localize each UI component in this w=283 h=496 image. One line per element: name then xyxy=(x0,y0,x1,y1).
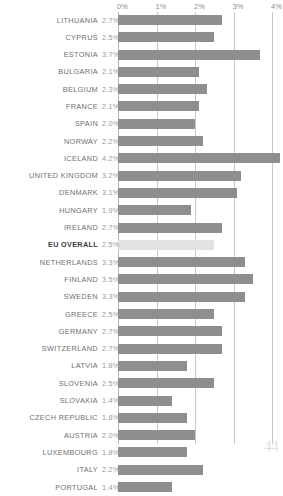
category-label: CZECH REPUBLIC xyxy=(0,413,98,422)
value-label: 2.5% xyxy=(102,240,128,249)
bar xyxy=(118,326,222,336)
value-label: 3.5% xyxy=(102,275,128,284)
chart-row: CZECH REPUBLIC1.8% xyxy=(0,410,280,427)
chart-row: LATVIA1.8% xyxy=(0,358,280,375)
value-label: 1.4% xyxy=(102,396,128,405)
value-label: 2.2% xyxy=(102,465,128,474)
chart-row: FINLAND3.5% xyxy=(0,271,280,288)
chart-row: NETHERLANDS3.3% xyxy=(0,254,280,271)
value-label: 4.2% xyxy=(102,154,128,163)
value-label: 2.0% xyxy=(102,431,128,440)
chart-row: PORTUGAL1.4% xyxy=(0,479,280,496)
bar xyxy=(118,67,199,77)
category-label: SWITZERLAND xyxy=(0,344,98,353)
value-label: 1.8% xyxy=(102,413,128,422)
bar xyxy=(118,447,187,457)
bar xyxy=(118,465,203,475)
bar xyxy=(118,32,214,42)
chart-row: EU OVERALL2.5% xyxy=(0,237,280,254)
value-label: 2.1% xyxy=(102,67,128,76)
category-label: GERMANY xyxy=(0,327,98,336)
category-label: BELGIUM xyxy=(0,85,98,94)
value-label: 2.7% xyxy=(102,344,128,353)
value-label: 2.1% xyxy=(102,102,128,111)
chart-row: GREECE2.5% xyxy=(0,306,280,323)
chart-row: AUSTRIA2.0% xyxy=(0,427,280,444)
value-label: 2.7% xyxy=(102,16,128,25)
bar xyxy=(118,274,253,284)
chart-rows: LITHUANIA2.7%CYPRUS2.5%ESTONIA3.7%BULGAR… xyxy=(0,12,280,496)
value-label: 1.8% xyxy=(102,361,128,370)
page-number: 44 xyxy=(264,438,278,455)
bar xyxy=(118,84,207,94)
chart-row: GERMANY2.7% xyxy=(0,323,280,340)
chart-row: SWEDEN3.3% xyxy=(0,289,280,306)
chart-row: BULGARIA2.1% xyxy=(0,64,280,81)
chart-row: LITHUANIA2.7% xyxy=(0,12,280,29)
chart-row: IRELAND2.7% xyxy=(0,220,280,237)
value-label: 1.9% xyxy=(102,206,128,215)
category-label: DENMARK xyxy=(0,188,98,197)
category-label: SWEDEN xyxy=(0,292,98,301)
bar xyxy=(118,188,237,198)
chart-row: SWITZERLAND2.7% xyxy=(0,341,280,358)
category-label: EU OVERALL xyxy=(0,240,98,249)
value-label: 3.7% xyxy=(102,50,128,59)
value-label: 3.1% xyxy=(102,188,128,197)
bar-highlight xyxy=(118,240,214,250)
chart-row: CYPRUS2.5% xyxy=(0,29,280,46)
category-label: ESTONIA xyxy=(0,50,98,59)
bar xyxy=(118,378,214,388)
value-label: 3.3% xyxy=(102,292,128,301)
category-label: BULGARIA xyxy=(0,67,98,76)
chart-row: SPAIN2.0% xyxy=(0,116,280,133)
x-axis-tick-label: 1% xyxy=(156,2,167,11)
bar xyxy=(118,292,245,302)
category-label: FINLAND xyxy=(0,275,98,284)
chart-row: NORWAY2.2% xyxy=(0,133,280,150)
value-label: 3.2% xyxy=(102,171,128,180)
chart-row: SLOVAKIA1.4% xyxy=(0,393,280,410)
bar xyxy=(118,153,280,163)
value-label: 1.4% xyxy=(102,483,128,492)
category-label: LITHUANIA xyxy=(0,16,98,25)
value-label: 2.5% xyxy=(102,379,128,388)
category-label: LATVIA xyxy=(0,361,98,370)
bar xyxy=(118,50,260,60)
chart-row: FRANCE2.1% xyxy=(0,98,280,115)
category-label: NETHERLANDS xyxy=(0,258,98,267)
chart-row: HUNGARY1.9% xyxy=(0,202,280,219)
bar xyxy=(118,430,195,440)
bar xyxy=(118,205,191,215)
value-label: 2.7% xyxy=(102,223,128,232)
bar xyxy=(118,344,222,354)
chart-row: LUXEMBOURG1.8% xyxy=(0,444,280,461)
category-label: AUSTRIA xyxy=(0,431,98,440)
value-label: 2.7% xyxy=(102,327,128,336)
chart-row: ICELAND4.2% xyxy=(0,150,280,167)
category-label: CYPRUS xyxy=(0,33,98,42)
bar xyxy=(118,309,214,319)
category-label: FRANCE xyxy=(0,102,98,111)
chart-row: SLOVENIA2.5% xyxy=(0,375,280,392)
value-label: 1.8% xyxy=(102,448,128,457)
category-label: UNITED KINGDOM xyxy=(0,171,98,180)
value-label: 2.5% xyxy=(102,33,128,42)
bar xyxy=(118,136,203,146)
bar xyxy=(118,413,187,423)
category-label: PORTUGAL xyxy=(0,483,98,492)
value-label: 2.0% xyxy=(102,119,128,128)
category-label: IRELAND xyxy=(0,223,98,232)
bar xyxy=(118,223,222,233)
category-label: LUXEMBOURG xyxy=(0,448,98,457)
category-label: NORWAY xyxy=(0,137,98,146)
bar xyxy=(118,15,222,25)
value-label: 2.3% xyxy=(102,85,128,94)
category-label: SLOVENIA xyxy=(0,379,98,388)
category-label: SPAIN xyxy=(0,119,98,128)
value-label: 3.3% xyxy=(102,258,128,267)
x-axis-tick-label: 2% xyxy=(194,2,205,11)
category-label: ICELAND xyxy=(0,154,98,163)
bar xyxy=(118,257,245,267)
category-label: ITALY xyxy=(0,465,98,474)
